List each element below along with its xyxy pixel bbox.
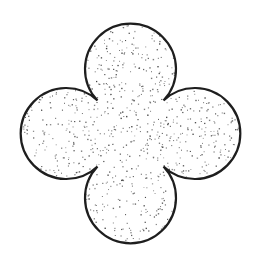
quatrefoil-figure: [0, 0, 257, 261]
figure-container: Quatrefoil shape with stippled fill: [0, 0, 257, 261]
